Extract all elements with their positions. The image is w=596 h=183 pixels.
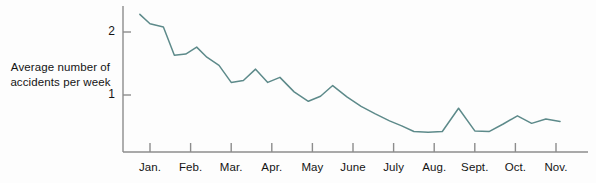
- plot-area: [0, 0, 596, 183]
- x-tick-label: Aug.: [411, 161, 457, 173]
- x-tick-marks: [150, 143, 556, 152]
- x-tick-label: Feb.: [168, 161, 214, 173]
- x-tick-label: Jan.: [127, 161, 173, 173]
- y-tick-label: 2: [97, 24, 115, 38]
- x-tick-label: Apr.: [249, 161, 295, 173]
- axes: [123, 6, 588, 152]
- x-tick-label: June: [330, 161, 376, 173]
- x-tick-label: Sept.: [452, 161, 498, 173]
- y-tick-label: 1: [97, 87, 115, 101]
- x-tick-label: July: [371, 161, 417, 173]
- x-tick-label: May: [289, 161, 335, 173]
- x-tick-label: Mar.: [208, 161, 254, 173]
- accidents-data-line: [140, 14, 560, 132]
- y-tick-marks: [123, 32, 131, 95]
- x-tick-label: Oct.: [492, 161, 538, 173]
- accidents-per-week-line-chart: Average number of accidents per week 21 …: [0, 0, 596, 183]
- x-tick-label: Nov.: [533, 161, 579, 173]
